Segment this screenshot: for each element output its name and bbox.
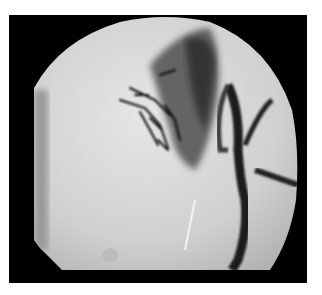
angiogram-image — [0, 0, 322, 295]
